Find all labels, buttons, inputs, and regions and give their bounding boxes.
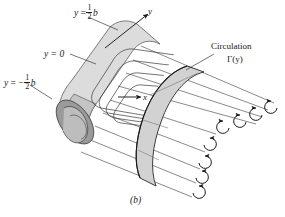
label-circulation-symbol: Γ(y) xyxy=(227,55,243,64)
label-span-top-fraction: 12 xyxy=(86,4,92,21)
fraction-denominator: 2 xyxy=(24,82,30,91)
label-span-mid: y = 0 xyxy=(44,50,64,60)
vortex-sheet-diagram: y =12b y = 0 y = −12b Circulation Γ(y) y… xyxy=(0,0,285,217)
label-circulation-title: Circulation xyxy=(211,42,252,51)
label-span-top-var: y xyxy=(74,8,78,18)
label-axis-y: y xyxy=(148,7,152,16)
label-span-bottom: y = −12b xyxy=(4,74,35,91)
label-span-bottom-var: y xyxy=(4,78,8,88)
label-span-top-unit: b xyxy=(93,8,98,18)
label-span-bottom-unit: b xyxy=(31,78,36,88)
circulation-distribution-curve xyxy=(136,66,204,186)
label-axis-x: x xyxy=(143,93,147,102)
diagram-canvas xyxy=(0,0,285,217)
label-span-top-eq: = xyxy=(81,8,86,18)
label-span-bottom-eq: = − xyxy=(11,78,24,88)
vortex-rotation-arrows-upper xyxy=(217,101,277,133)
label-span-top: y =12b xyxy=(74,4,98,21)
fraction-numerator: 1 xyxy=(24,74,30,82)
vortex-rotation-arrows-lower xyxy=(193,138,216,198)
label-span-bottom-fraction: 12 xyxy=(24,74,30,91)
figure-caption: (b) xyxy=(130,196,141,206)
fraction-denominator: 2 xyxy=(86,12,92,21)
fraction-numerator: 1 xyxy=(86,4,92,12)
